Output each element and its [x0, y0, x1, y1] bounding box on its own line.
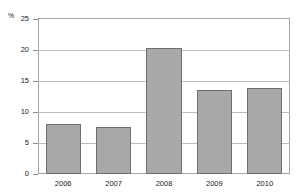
y-axis-label-20: 20 — [3, 46, 29, 54]
bar-series — [38, 18, 290, 174]
clipped-top-caption — [8, 0, 128, 7]
y-axis-label-5: 5 — [3, 139, 29, 147]
bar-2009 — [197, 90, 232, 174]
x-axis-label-2008: 2008 — [139, 179, 189, 188]
bar-2008 — [146, 48, 181, 174]
y-axis-label-0: 0 — [3, 170, 29, 178]
y-axis-label-15: 15 — [3, 77, 29, 85]
bar-chart: % 0510152025 20062007200820092010 — [0, 0, 303, 196]
y-axis-label-25: 25 — [3, 15, 29, 23]
bar-2010 — [247, 88, 282, 174]
y-axis-label-10: 10 — [3, 108, 29, 116]
bar-2006 — [46, 124, 81, 174]
x-axis-label-2007: 2007 — [88, 179, 138, 188]
x-axis-label-2006: 2006 — [38, 179, 88, 188]
x-axis-label-2009: 2009 — [189, 179, 239, 188]
x-axis-label-2010: 2010 — [240, 179, 290, 188]
bar-2007 — [96, 127, 131, 174]
